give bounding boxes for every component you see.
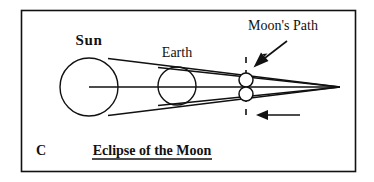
moons-path-label: Moon's Path: [248, 18, 318, 33]
figure-caption: Eclipse of the Moon: [93, 143, 212, 158]
moon-circle-lower: [239, 87, 253, 101]
eclipse-diagram-svg: Sun Earth Moon's Path C Eclipse of the M…: [0, 0, 374, 182]
sun-label: Sun: [76, 32, 103, 48]
earth-label: Earth: [162, 45, 192, 60]
panel-label: C: [36, 143, 46, 158]
moon-circle-upper: [239, 73, 253, 87]
eclipse-figure: Sun Earth Moon's Path C Eclipse of the M…: [0, 0, 374, 182]
